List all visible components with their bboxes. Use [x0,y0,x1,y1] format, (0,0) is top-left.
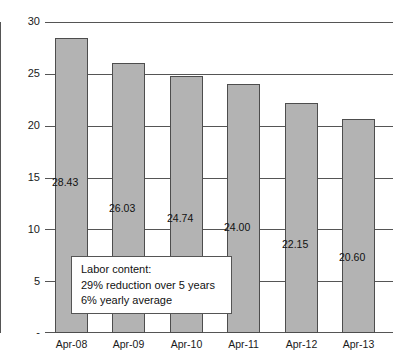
y-tick-label-15: 15 [6,172,40,183]
x-axis-line [45,332,393,333]
bar-value-label-apr-08: 28.43 [52,177,78,188]
y-axis-tick-labels: 30 25 20 15 10 5 - [0,0,40,362]
x-tick-label-apr-12: Apr-12 [271,338,332,350]
annotation-line-3: 6% yearly average [81,293,231,309]
x-tick-label-apr-10: Apr-10 [156,338,217,350]
bar-apr-13 [342,119,375,333]
x-tick-label-apr-08: Apr-08 [41,338,102,350]
bar-value-label-apr-10: 24.74 [167,213,193,224]
gridline-30 [45,22,393,23]
y-tick-label-10: 10 [6,224,40,235]
annotation-line-2: 29% reduction over 5 years [81,278,231,294]
x-tick-label-apr-13: Apr-13 [328,338,389,350]
bar-value-label-apr-12: 22.15 [282,239,308,250]
gridline-15 [45,178,393,179]
y-tick-label-20: 20 [6,120,40,131]
y-tick-label-0: - [6,327,40,338]
x-tick-label-apr-11: Apr-11 [213,338,274,350]
bar-chart: 30 25 20 15 10 5 - 28.43 26.03 24.74 24.… [0,0,405,362]
annotation-line-1: Labor content: [81,262,231,278]
x-tick-label-apr-09: Apr-09 [98,338,159,350]
y-tick-label-25: 25 [6,68,40,79]
gridline-25 [45,74,393,75]
y-tick-label-30: 30 [6,16,40,27]
bar-value-label-apr-13: 20.60 [339,252,365,263]
bar-value-label-apr-11: 24.00 [224,222,250,233]
gridline-10 [45,229,393,230]
gridline-20 [45,126,393,127]
labor-content-annotation: Labor content: 29% reduction over 5 year… [71,256,232,314]
bar-apr-12 [285,103,318,333]
y-axis-line [0,22,1,333]
y-tick-label-5: 5 [6,276,40,287]
bar-value-label-apr-09: 26.03 [109,203,135,214]
